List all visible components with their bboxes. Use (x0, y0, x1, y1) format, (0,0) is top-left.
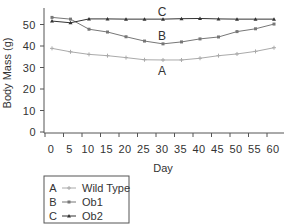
y-axis-title: Body Mass (g) (1, 38, 13, 109)
x-tick-label: 20 (118, 143, 131, 155)
legend-label: Ob2 (82, 210, 103, 222)
y-tick-label: 10 (23, 105, 36, 117)
x-tick-label: 40 (192, 143, 205, 155)
legend-label: Wild Type (82, 182, 130, 194)
y-tick-label: 40 (23, 40, 36, 52)
x-tick-label: 25 (137, 143, 150, 155)
x-tick-label: 35 (174, 143, 187, 155)
series-label-b: B (158, 29, 166, 43)
body-mass-chart: Body Mass (g) 01020304050 05101520253035… (0, 0, 285, 224)
x-tick-label: 55 (248, 143, 261, 155)
y-tick-label: 0 (29, 126, 36, 138)
series-label-a: A (158, 64, 166, 78)
x-tick-label: 30 (155, 143, 168, 155)
x-axis: 051015202530354045505560 (44, 133, 284, 155)
y-tick-label: 20 (23, 83, 36, 95)
y-tick-label: 50 (23, 19, 36, 31)
x-tick-label: 60 (266, 143, 279, 155)
legend-label: Ob1 (82, 196, 103, 208)
legend: AWild TypeBOb1COb2 (44, 176, 130, 223)
legend-key: C (49, 210, 57, 222)
legend-key: A (49, 182, 57, 194)
y-tick-label: 30 (23, 62, 36, 74)
series-label-c: C (158, 5, 167, 19)
series-wild-type (50, 46, 276, 62)
x-tick-label: 10 (81, 143, 94, 155)
x-tick-label: 5 (66, 143, 73, 155)
x-tick-label: 50 (229, 143, 242, 155)
legend-key: B (49, 196, 56, 208)
y-axis: 01020304050 (23, 8, 44, 138)
x-tick-label: 0 (48, 143, 55, 155)
series-annotations: CBA (158, 5, 167, 78)
x-tick-label: 45 (211, 143, 224, 155)
x-axis-title: Day (153, 162, 173, 174)
x-tick-label: 15 (100, 143, 113, 155)
